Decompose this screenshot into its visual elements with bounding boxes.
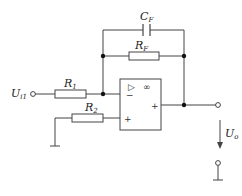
resistor-r1 — [55, 90, 86, 98]
output-label: Uo — [225, 127, 239, 141]
input-label: Ui1 — [11, 87, 27, 101]
arrow-head-icon — [217, 142, 223, 149]
output-ground — [213, 165, 223, 180]
resistor-r2 — [72, 114, 103, 122]
node-dot — [182, 54, 186, 58]
rf-label: RF — [134, 39, 149, 53]
opamp-noninverting-sign: + — [124, 114, 132, 124]
node-dot — [101, 54, 105, 58]
output-terminal — [216, 103, 221, 108]
r2-label: R2 — [84, 101, 98, 115]
capacitor-cf — [143, 24, 150, 36]
output-terminal-bottom — [216, 161, 221, 166]
opamp-inverting-sign: − — [126, 90, 134, 100]
input-terminal — [31, 92, 36, 97]
circuit-diagram: CF RF R1 R2 Ui1 Uo ▷ ∞ − + + — [0, 0, 242, 196]
r1-label: R1 — [63, 77, 77, 91]
node-dot — [182, 103, 186, 107]
opamp-gain-infinity: ∞ — [143, 82, 151, 92]
node-dot — [101, 92, 105, 96]
resistor-rf — [129, 52, 159, 60]
opamp-output-sign: + — [151, 101, 159, 111]
cf-label: CF — [140, 10, 154, 24]
output-wire — [161, 56, 216, 105]
